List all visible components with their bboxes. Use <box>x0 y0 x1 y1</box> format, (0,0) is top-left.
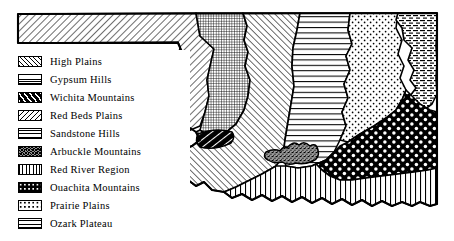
legend-label-arbuckle-mountains: Arbuckle Mountains <box>50 146 141 157</box>
legend-label-wichita-mountains: Wichita Mountains <box>50 92 135 103</box>
legend-swatch-ouachita-mountains <box>18 182 42 193</box>
legend-label-gypsum-hills: Gypsum Hills <box>50 74 112 85</box>
legend-label-ozark-plateau: Ozark Plateau <box>50 218 112 229</box>
legend-item-ozark-plateau[interactable]: Ozark Plateau <box>14 214 190 232</box>
legend-item-red-beds-plains[interactable]: Red Beds Plains <box>14 106 190 124</box>
legend-label-prairie-plains: Prairie Plains <box>50 200 110 211</box>
map-legend: High Plains Gypsum Hills Wichita Mountai… <box>14 50 190 232</box>
legend-swatch-ozark-plateau <box>18 218 42 229</box>
legend-item-gypsum-hills[interactable]: Gypsum Hills <box>14 70 190 88</box>
legend-item-sandstone-hills[interactable]: Sandstone Hills <box>14 124 190 142</box>
legend-swatch-prairie-plains <box>18 200 42 211</box>
legend-label-ouachita-mountains: Ouachita Mountains <box>50 182 140 193</box>
legend-swatch-wichita-mountains <box>18 92 42 103</box>
legend-label-red-beds-plains: Red Beds Plains <box>50 110 123 121</box>
legend-label-sandstone-hills: Sandstone Hills <box>50 128 120 139</box>
legend-item-ouachita-mountains[interactable]: Ouachita Mountains <box>14 178 190 196</box>
legend-item-high-plains[interactable]: High Plains <box>14 52 190 70</box>
legend-item-red-river-region[interactable]: Red River Region <box>14 160 190 178</box>
legend-label-high-plains: High Plains <box>50 56 102 67</box>
legend-swatch-gypsum-hills <box>18 74 42 85</box>
legend-item-prairie-plains[interactable]: Prairie Plains <box>14 196 190 214</box>
legend-swatch-sandstone-hills <box>18 128 42 139</box>
legend-swatch-red-beds-plains <box>18 110 42 121</box>
legend-item-arbuckle-mountains[interactable]: Arbuckle Mountains <box>14 142 190 160</box>
legend-swatch-red-river-region <box>18 164 42 175</box>
legend-swatch-high-plains <box>18 56 42 67</box>
legend-swatch-arbuckle-mountains <box>18 146 42 157</box>
legend-label-red-river-region: Red River Region <box>50 164 130 175</box>
figure-root: High Plains Gypsum Hills Wichita Mountai… <box>0 0 454 241</box>
legend-item-wichita-mountains[interactable]: Wichita Mountains <box>14 88 190 106</box>
